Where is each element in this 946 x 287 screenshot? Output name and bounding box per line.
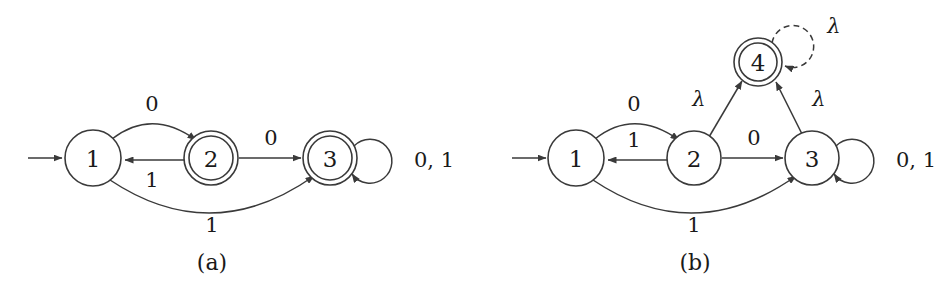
edge-label-a-2-to-3: 0	[264, 126, 277, 150]
state-label-a-2: 2	[204, 146, 219, 172]
figure-root: 0 1 0 1 0, 1 1 2	[0, 0, 946, 287]
panel-a: 0 1 0 1 0, 1 1 2	[28, 92, 454, 275]
edge-label-b-2-to-4-lambda: λ	[691, 87, 705, 111]
edge-b-2-to-4-lambda	[709, 81, 742, 137]
edge-a-1-to-2	[112, 124, 196, 140]
edge-label-b-3-self-loop: 0, 1	[896, 148, 936, 172]
edge-label-b-4-self-loop-lambda: λ	[826, 14, 840, 38]
state-node-b-4[interactable]: 4	[734, 38, 782, 86]
state-node-a-1[interactable]: 1	[65, 130, 121, 186]
panel-b: 0 1 0 1 0, 1 λ λ λ 1	[512, 14, 936, 275]
state-node-b-2[interactable]: 2	[667, 131, 721, 185]
edge-b-3-to-4-lambda	[776, 82, 802, 134]
state-label-b-3: 3	[805, 146, 820, 172]
panel-caption-b: (b)	[679, 250, 710, 275]
state-label-b-1: 1	[569, 146, 584, 172]
state-label-b-4: 4	[751, 50, 766, 76]
edge-a-3-self-loop	[352, 139, 392, 183]
edge-label-b-2-to-3: 0	[747, 126, 760, 150]
panel-caption-a: (a)	[197, 250, 227, 275]
state-node-a-3[interactable]: 3	[303, 131, 357, 185]
edge-b-3-self-loop	[834, 139, 874, 183]
state-node-b-1[interactable]: 1	[548, 130, 604, 186]
edge-label-b-1-to-3: 1	[687, 213, 700, 237]
edge-label-b-2-to-1: 1	[627, 128, 640, 152]
state-label-a-1: 1	[86, 146, 101, 172]
edge-label-a-2-to-1: 1	[145, 168, 158, 192]
edge-label-b-3-to-4-lambda: λ	[811, 87, 825, 111]
edge-label-a-3-self-loop: 0, 1	[414, 148, 454, 172]
state-label-b-2: 2	[687, 146, 702, 172]
state-label-a-3: 3	[323, 146, 338, 172]
state-node-a-2[interactable]: 2	[184, 131, 238, 185]
edge-label-b-1-to-2: 0	[627, 92, 640, 116]
state-node-b-3[interactable]: 3	[785, 131, 839, 185]
edge-label-a-1-to-3: 1	[205, 213, 218, 237]
automata-figure: 0 1 0 1 0, 1 1 2	[0, 0, 946, 287]
edge-label-a-1-to-2: 0	[145, 92, 158, 116]
